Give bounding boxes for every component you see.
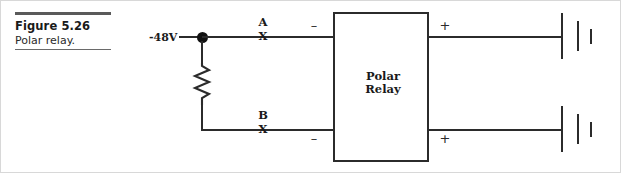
polarity-bottom-left: – bbox=[307, 134, 321, 144]
wire-relay-to-bottom-terminal bbox=[429, 129, 562, 131]
wire-junction-to-resistor bbox=[201, 41, 203, 65]
contact-b-name: B bbox=[256, 108, 270, 122]
relay-box: Polar Relay bbox=[333, 12, 429, 162]
contact-b-state: X bbox=[256, 122, 270, 136]
polarity-top-right: + bbox=[438, 21, 452, 31]
polarity-bottom-right: + bbox=[438, 134, 452, 144]
wire-resistor-to-bottom-rail bbox=[201, 101, 203, 131]
relay-box-label: Polar Relay bbox=[335, 70, 431, 96]
circuit-schematic: -48V A X B X – Polar Relay + – bbox=[1, 1, 621, 173]
source-voltage-label: -48V bbox=[149, 31, 177, 44]
bottom-terminal-battery-icon bbox=[557, 104, 603, 154]
figure-page: Figure 5.26 Polar relay. -48V A X B X – bbox=[0, 0, 621, 173]
polarity-top-left: – bbox=[307, 21, 321, 31]
contact-a-state: X bbox=[256, 29, 270, 43]
resistor-icon bbox=[191, 63, 215, 105]
top-terminal-battery-icon bbox=[557, 11, 603, 61]
wire-relay-to-top-terminal bbox=[429, 36, 562, 38]
contact-a-name: A bbox=[256, 15, 270, 29]
